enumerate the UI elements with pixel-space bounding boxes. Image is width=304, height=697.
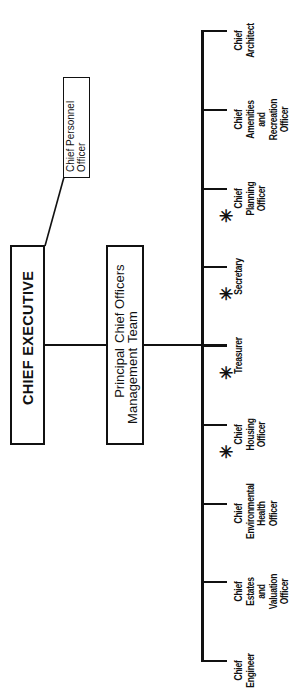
department-label: ChiefAmenitiesandRecreationOfficer	[233, 94, 291, 145]
department-label-line: Architect	[245, 14, 257, 65]
department-label: Secretary	[233, 251, 245, 302]
asterisk-icon: ✳	[219, 208, 233, 225]
department-label-line: Engineer	[245, 645, 257, 696]
cpo-line-2: Officer	[77, 101, 88, 172]
department-tick	[202, 266, 227, 268]
department-tick	[202, 345, 227, 347]
asterisk-icon: ✳	[219, 444, 233, 461]
department-label-line: Valuation	[268, 566, 280, 617]
department-label-line: Recreation	[268, 94, 280, 145]
chief-personnel-officer-box: Chief Personnel Officer	[63, 77, 90, 178]
department-tick	[202, 30, 227, 32]
department-label: ChiefEnvironmentalHealthOfficer	[233, 488, 279, 539]
department-tick	[202, 581, 227, 583]
department-label: ChiefArchitect	[233, 14, 256, 65]
department-tick	[202, 109, 227, 111]
department-label-line: Chief	[233, 409, 245, 460]
asterisk-icon: ✳	[219, 286, 233, 303]
cpo-line-1: Chief Personnel	[66, 101, 77, 172]
department-label-line: Housing	[245, 409, 257, 460]
chief-executive-label: CHIEF EXECUTIVE	[20, 271, 36, 405]
department-label-line: Chief	[233, 14, 245, 65]
department-tick	[202, 660, 227, 662]
pm-line-2: Management	[126, 348, 139, 440]
department-label-line: Officer	[279, 94, 291, 145]
department-label-line: Secretary	[233, 251, 245, 302]
department-label-line: Officer	[268, 488, 280, 539]
chief-officers-team-label: Chief Officers Team	[113, 251, 139, 343]
department-label: ChiefHousingOfficer	[233, 409, 268, 460]
department-label: Treasurer	[233, 330, 245, 381]
department-label-line: Chief	[233, 173, 245, 224]
department-label-line: Chief	[233, 645, 245, 696]
department-label-line: Chief	[233, 488, 245, 539]
department-label-line: Officer	[256, 409, 268, 460]
department-label-line: and	[256, 94, 268, 145]
chief-executive-box: CHIEF EXECUTIVE	[10, 245, 45, 445]
department-label-line: and	[256, 566, 268, 617]
department-tick	[202, 424, 227, 426]
cot-line-2: Team	[126, 251, 139, 343]
department-label-line: Amenities	[245, 94, 257, 145]
department-label-line: Officer	[279, 566, 291, 617]
department-label-line: Environmental	[245, 488, 257, 539]
department-label: ChiefEstatesandValuationOfficer	[233, 566, 291, 617]
department-label-line: Chief	[233, 566, 245, 617]
asterisk-icon: ✳	[219, 365, 233, 382]
department-label-line: Chief	[233, 94, 245, 145]
department-tick	[202, 503, 227, 505]
department-label-line: Treasurer	[233, 330, 245, 381]
department-label-line: Planning	[245, 173, 257, 224]
department-label: ChiefPlanningOfficer	[233, 173, 268, 224]
chief-personnel-officer-label: Chief Personnel Officer	[66, 101, 87, 172]
department-tick	[202, 188, 227, 190]
department-label: ChiefEngineer	[233, 645, 256, 696]
department-label-line: Estates	[245, 566, 257, 617]
department-label-line: Health	[256, 488, 268, 539]
principal-management-team-box: Principal Management Chief Officers Team	[106, 245, 144, 445]
principal-management-label: Principal Management	[113, 348, 139, 440]
department-label-line: Officer	[256, 173, 268, 224]
